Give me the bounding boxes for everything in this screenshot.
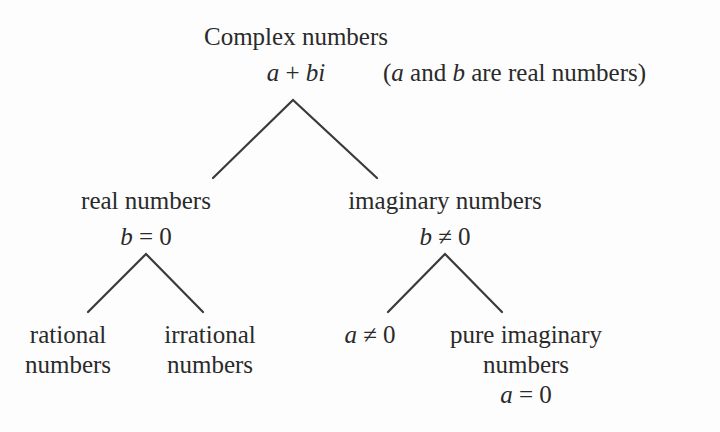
irrational-label: irrationalnumbers	[164, 320, 256, 380]
imaginary-condition: b ≠ 0	[419, 222, 470, 252]
real-title: real numbers	[81, 186, 211, 216]
real-branch	[88, 254, 203, 312]
rational-label: rationalnumbers	[25, 320, 111, 380]
nonzero-a-label: a ≠ 0	[344, 320, 395, 350]
root-title: Complex numbers	[204, 22, 388, 52]
imaginary-title: imaginary numbers	[348, 186, 542, 216]
pure-imaginary-label: pure imaginarynumbersa = 0	[450, 320, 602, 410]
root-form: a + bi	[267, 58, 326, 88]
root-note: (a and b are real numbers)	[383, 58, 646, 88]
imaginary-branch	[388, 254, 502, 312]
real-condition: b = 0	[120, 222, 172, 252]
root-branch	[213, 100, 377, 178]
